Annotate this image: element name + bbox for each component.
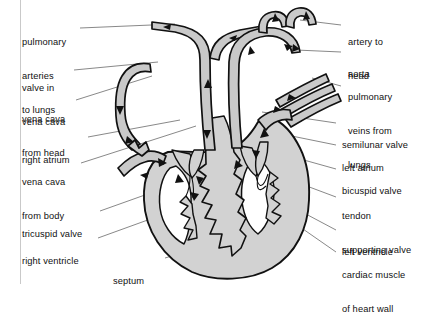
label-right-ventricle: right ventricle xyxy=(22,233,79,290)
leader-aorta xyxy=(296,50,341,52)
label-line: cardiac muscle xyxy=(342,270,405,281)
label-line: vena cava xyxy=(22,177,65,188)
leader-vena-cava-head xyxy=(76,76,152,100)
leader-artery-to-head xyxy=(300,20,341,25)
leader-right-atrium xyxy=(88,120,180,137)
heart-body xyxy=(144,116,309,279)
arrow-aorta-1 xyxy=(248,46,255,55)
artery-to-head-2 xyxy=(286,8,316,28)
label-line: pulmonary xyxy=(22,37,66,48)
label-line: right ventricle xyxy=(22,256,79,267)
label-line: of heart wall xyxy=(342,304,405,315)
label-line: vena cava xyxy=(22,114,65,125)
label-line: septum xyxy=(113,276,144,287)
label-septum: septum xyxy=(113,253,144,310)
label-line: tendon xyxy=(342,211,411,222)
label-cardiac-muscle-of-heart-wall: cardiac muscle of heart wall xyxy=(342,247,405,316)
label-line: pulmonary xyxy=(348,92,392,103)
